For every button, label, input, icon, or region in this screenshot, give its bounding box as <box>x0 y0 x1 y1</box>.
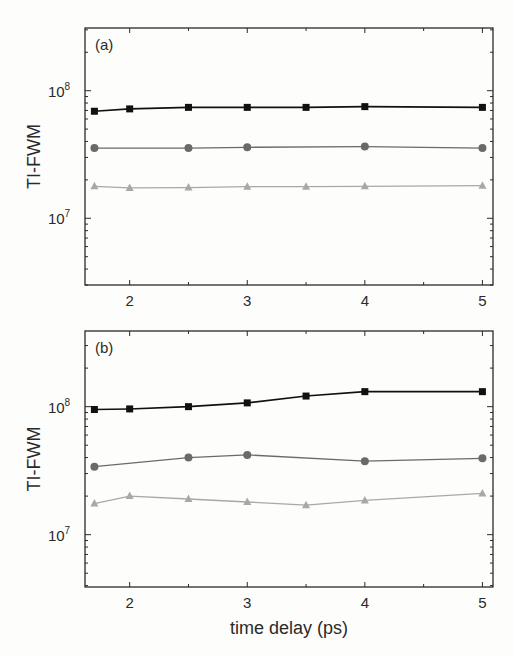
plot-frame <box>85 28 493 285</box>
y-tick-label: 107 <box>48 525 71 544</box>
data-point-square <box>303 393 310 400</box>
data-point-square <box>185 104 192 111</box>
series-triangles <box>90 489 486 508</box>
figure: 2345107108TI-FWM(a) 2345107108TI-FWMtime… <box>0 0 514 656</box>
data-point-square <box>91 108 98 115</box>
data-point-triangle <box>478 489 486 497</box>
x-tick-label: 2 <box>126 594 134 611</box>
data-point-circle <box>243 451 251 459</box>
series-squares <box>91 103 486 115</box>
y-axis-label: TI-FWM <box>24 427 44 492</box>
series-triangles <box>90 181 486 191</box>
panel-a: 2345107108TI-FWM(a) <box>24 28 493 309</box>
data-point-triangle <box>361 182 369 190</box>
y-tick-label: 108 <box>48 397 71 416</box>
x-axis-label: time delay (ps) <box>230 618 348 638</box>
data-point-square <box>479 388 486 395</box>
x-tick-label: 3 <box>243 292 251 309</box>
data-point-square <box>185 403 192 410</box>
data-point-triangle <box>478 181 486 189</box>
y-axis-label: TI-FWM <box>24 124 44 189</box>
x-tick-label: 4 <box>361 292 369 309</box>
series-squares <box>91 388 486 413</box>
data-point-circle <box>90 144 98 152</box>
x-tick-label: 4 <box>361 594 369 611</box>
data-point-triangle <box>126 492 134 500</box>
data-point-triangle <box>90 182 98 190</box>
series-line-squares <box>94 107 482 112</box>
data-point-triangle <box>184 183 192 191</box>
data-point-square <box>303 104 310 111</box>
data-point-circle <box>243 143 251 151</box>
y-tick-label: 108 <box>48 81 71 100</box>
data-point-circle <box>90 463 98 471</box>
data-point-square <box>126 105 133 112</box>
series-line-triangles <box>94 493 482 505</box>
data-point-square <box>244 104 251 111</box>
data-point-circle <box>361 143 369 151</box>
data-point-square <box>479 104 486 111</box>
data-point-circle <box>184 144 192 152</box>
x-tick-label: 5 <box>478 594 486 611</box>
series-line-squares <box>94 392 482 410</box>
series-line-circles <box>94 147 482 149</box>
data-point-circle <box>478 454 486 462</box>
series-circles <box>90 143 486 153</box>
x-tick-label: 2 <box>126 292 134 309</box>
panel-label: (a) <box>95 36 113 53</box>
y-tick-label: 107 <box>48 208 71 227</box>
x-tick-label: 5 <box>478 292 486 309</box>
data-point-square <box>126 405 133 412</box>
data-point-circle <box>478 144 486 152</box>
panel-label: (b) <box>95 339 113 356</box>
data-point-square <box>244 399 251 406</box>
data-point-square <box>361 103 368 110</box>
data-point-circle <box>361 457 369 465</box>
data-point-triangle <box>243 182 251 190</box>
data-point-square <box>361 388 368 395</box>
data-point-circle <box>184 454 192 462</box>
series-circles <box>90 451 486 471</box>
x-tick-label: 3 <box>243 594 251 611</box>
data-point-square <box>91 406 98 413</box>
series-line-triangles <box>94 186 482 188</box>
series-line-circles <box>94 455 482 467</box>
data-point-triangle <box>302 182 310 190</box>
panel-b: 2345107108TI-FWMtime delay (ps)(b) <box>24 331 493 638</box>
